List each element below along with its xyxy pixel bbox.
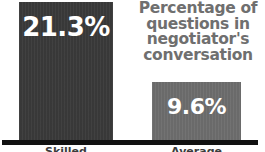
bar-value-skilled: 21.3% <box>19 14 113 40</box>
bar-chart: Percentage of questions in negotiator's … <box>0 0 265 152</box>
axis-baseline <box>2 140 258 145</box>
chart-title: Percentage of questions in negotiator's … <box>133 1 263 63</box>
category-label-skilled: Skilled <box>19 146 113 152</box>
category-label-average: Average <box>152 146 241 152</box>
bar-value-average: 9.6% <box>152 96 241 118</box>
